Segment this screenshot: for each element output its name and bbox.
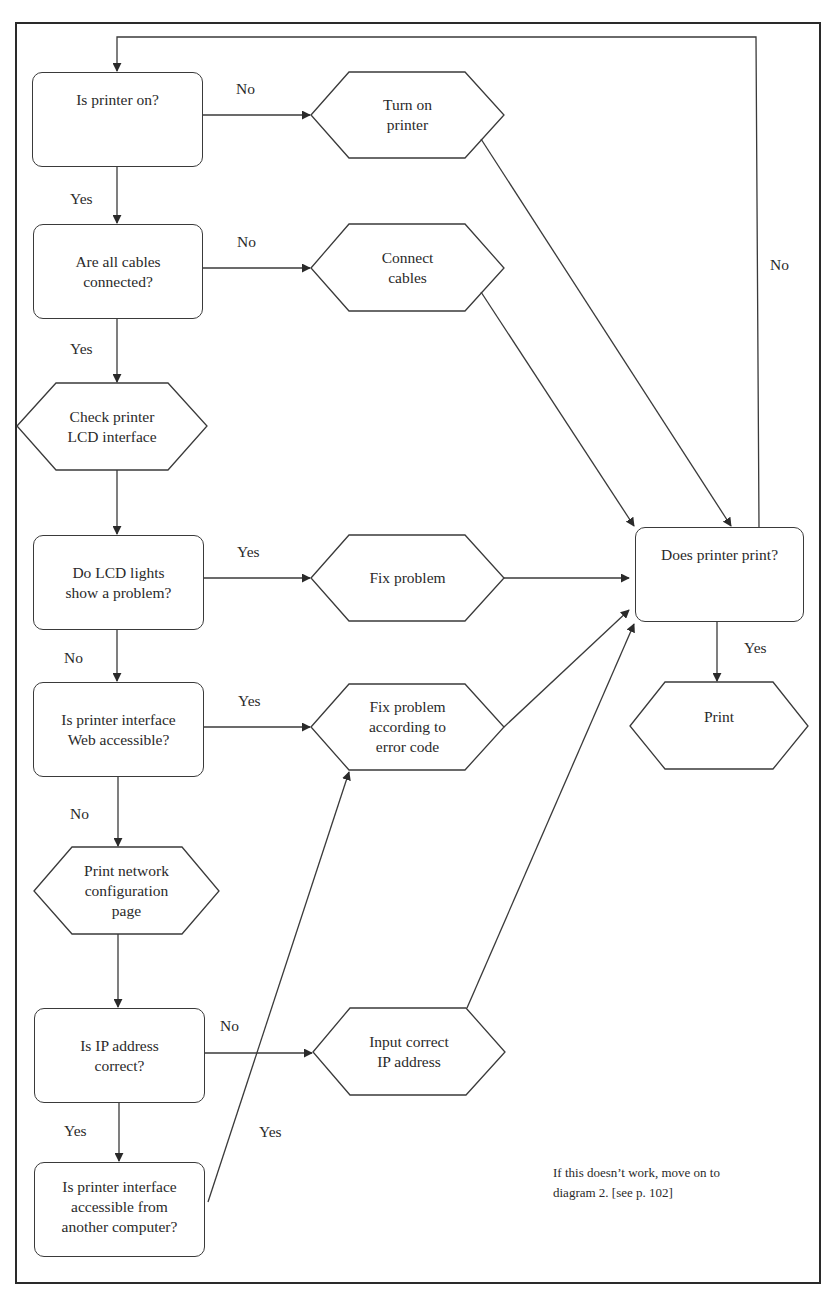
connector-turn-on-to-does-print xyxy=(481,139,731,526)
connector-fix-error-to-does-print xyxy=(504,610,629,727)
label-printer-on-no: No xyxy=(236,80,255,98)
text-ip-correct: Is IP address correct? xyxy=(34,1008,205,1103)
text-does-printer-print: Does printer print? xyxy=(635,527,804,582)
text-lcd-problem: Do LCD lights show a problem? xyxy=(33,535,204,630)
label-lcd-yes: Yes xyxy=(237,543,260,561)
label-cables-no: No xyxy=(237,233,256,251)
label-other-computer-yes: Yes xyxy=(259,1123,282,1141)
text-print-config: Print network configuration page xyxy=(34,847,219,934)
label-cables-yes: Yes xyxy=(70,340,93,358)
label-lcd-no: No xyxy=(64,649,83,667)
text-turn-on-printer: Turn on printer xyxy=(311,72,504,158)
label-does-print-yes: Yes xyxy=(744,639,767,657)
text-is-printer-on: Is printer on? xyxy=(32,72,203,127)
label-printer-on-yes: Yes xyxy=(70,190,93,208)
text-are-cables-connected: Are all cables connected? xyxy=(33,224,203,319)
text-other-computer: Is printer interface accessible from ano… xyxy=(34,1162,205,1252)
flowchart-canvas: Is printer on? Turn on printer Are all c… xyxy=(0,0,834,1298)
label-web-no: No xyxy=(70,805,89,823)
footnote-next-diagram: If this doesn’t work, move on to diagram… xyxy=(553,1163,793,1203)
text-fix-problem: Fix problem xyxy=(311,535,504,621)
text-connect-cables: Connect cables xyxy=(311,224,504,311)
connectors-layer xyxy=(0,0,834,1298)
text-print: Print xyxy=(630,682,808,752)
connector-connect-to-does-print xyxy=(481,292,634,526)
label-ip-yes: Yes xyxy=(64,1122,87,1140)
text-web-accessible: Is printer interface Web accessible? xyxy=(33,682,204,777)
label-web-yes: Yes xyxy=(238,692,261,710)
label-ip-no: No xyxy=(220,1017,239,1035)
text-input-ip: Input correct IP address xyxy=(313,1008,505,1095)
label-does-print-no: No xyxy=(770,256,789,274)
text-fix-error-code: Fix problem according to error code xyxy=(311,684,504,770)
text-check-lcd: Check printer LCD interface xyxy=(17,383,207,470)
connector-input-ip-to-does-print xyxy=(467,624,634,1008)
